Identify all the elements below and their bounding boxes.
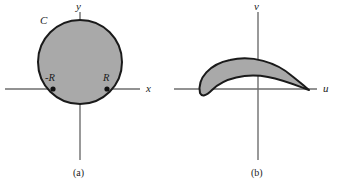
disk-region-c [38, 20, 122, 104]
point-marker-minus-r [50, 86, 55, 91]
u-axis-label: u [323, 83, 329, 94]
panel-b-graphic [172, 0, 345, 187]
curve-label-c: C [40, 15, 47, 26]
y-axis-label: y [76, 1, 81, 12]
panel-a: C y x -R R (a) [0, 0, 172, 187]
v-axis-label: v [254, 1, 259, 12]
point-label-r: R [103, 73, 109, 84]
panel-b: v u (b) [172, 0, 345, 187]
crescent-region [200, 58, 309, 95]
x-axis-label: x [146, 83, 151, 94]
figure-root: C y x -R R (a) v u (b) [0, 0, 345, 187]
point-marker-r [104, 86, 109, 91]
caption-b: (b) [251, 168, 263, 178]
caption-a: (a) [73, 168, 84, 178]
point-label-minus-r: -R [45, 73, 55, 84]
